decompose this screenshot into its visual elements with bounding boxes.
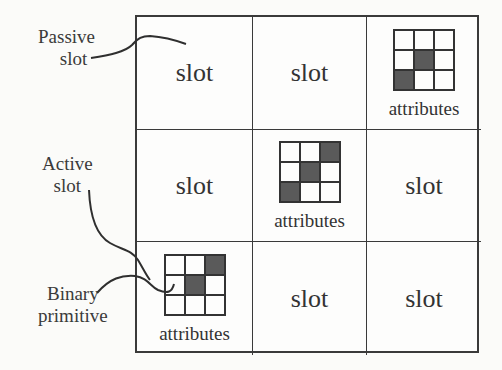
empty-pixel (434, 70, 454, 90)
filled-pixel (205, 255, 225, 275)
filled-pixel (185, 275, 205, 295)
callout-passive-line2: slot (52, 48, 95, 70)
empty-pixel (165, 275, 185, 295)
passive-slot-cell: slot (367, 130, 481, 242)
empty-pixel (165, 295, 185, 315)
attributes-label: attributes (274, 211, 345, 230)
active-slot-cell: attributes (137, 242, 253, 355)
empty-pixel (394, 30, 414, 50)
empty-pixel (300, 142, 320, 162)
empty-pixel (320, 162, 340, 182)
empty-pixel (394, 50, 414, 70)
empty-pixel (205, 295, 225, 315)
empty-pixel (280, 142, 300, 162)
passive-slot-cell: slot (253, 17, 367, 130)
empty-pixel (165, 255, 185, 275)
empty-pixel (185, 295, 205, 315)
active-slot-cell: attributes (367, 17, 481, 130)
slot-label: slot (291, 286, 329, 312)
filled-pixel (320, 142, 340, 162)
callout-binary-line2: primitive (38, 305, 108, 327)
attributes-label: attributes (159, 324, 230, 343)
empty-pixel (434, 30, 454, 50)
empty-pixel (205, 275, 225, 295)
callout-active-line2: slot (42, 175, 93, 197)
empty-pixel (414, 70, 434, 90)
binary-primitive-icon (393, 29, 455, 91)
filled-pixel (394, 70, 414, 90)
slot-label: slot (176, 60, 214, 86)
callout-passive-slot: Passive slot (38, 26, 95, 70)
passive-slot-cell: slot (137, 130, 253, 242)
filled-pixel (280, 182, 300, 202)
binary-primitive-icon (279, 141, 341, 203)
passive-slot-cell: slot (137, 17, 253, 130)
attributes-label: attributes (389, 99, 460, 118)
callout-binary-line1: Binary (38, 283, 108, 305)
slot-grid: slotslotattributesslotattributesslotattr… (135, 15, 479, 353)
passive-slot-cell: slot (253, 242, 367, 355)
callout-active-line1: Active (42, 153, 93, 175)
slot-label: slot (291, 60, 329, 86)
callout-binary-primitive: Binary primitive (38, 283, 108, 327)
callout-passive-line1: Passive (38, 26, 95, 48)
binary-primitive-icon (164, 254, 226, 316)
empty-pixel (320, 182, 340, 202)
slot-label: slot (176, 173, 214, 199)
passive-slot-cell: slot (367, 242, 481, 355)
slot-label: slot (405, 173, 443, 199)
empty-pixel (414, 30, 434, 50)
empty-pixel (185, 255, 205, 275)
filled-pixel (300, 162, 320, 182)
slot-label: slot (405, 286, 443, 312)
empty-pixel (300, 182, 320, 202)
callout-active-slot: Active slot (42, 153, 93, 197)
filled-pixel (414, 50, 434, 70)
active-slot-cell: attributes (253, 130, 367, 242)
empty-pixel (280, 162, 300, 182)
empty-pixel (434, 50, 454, 70)
